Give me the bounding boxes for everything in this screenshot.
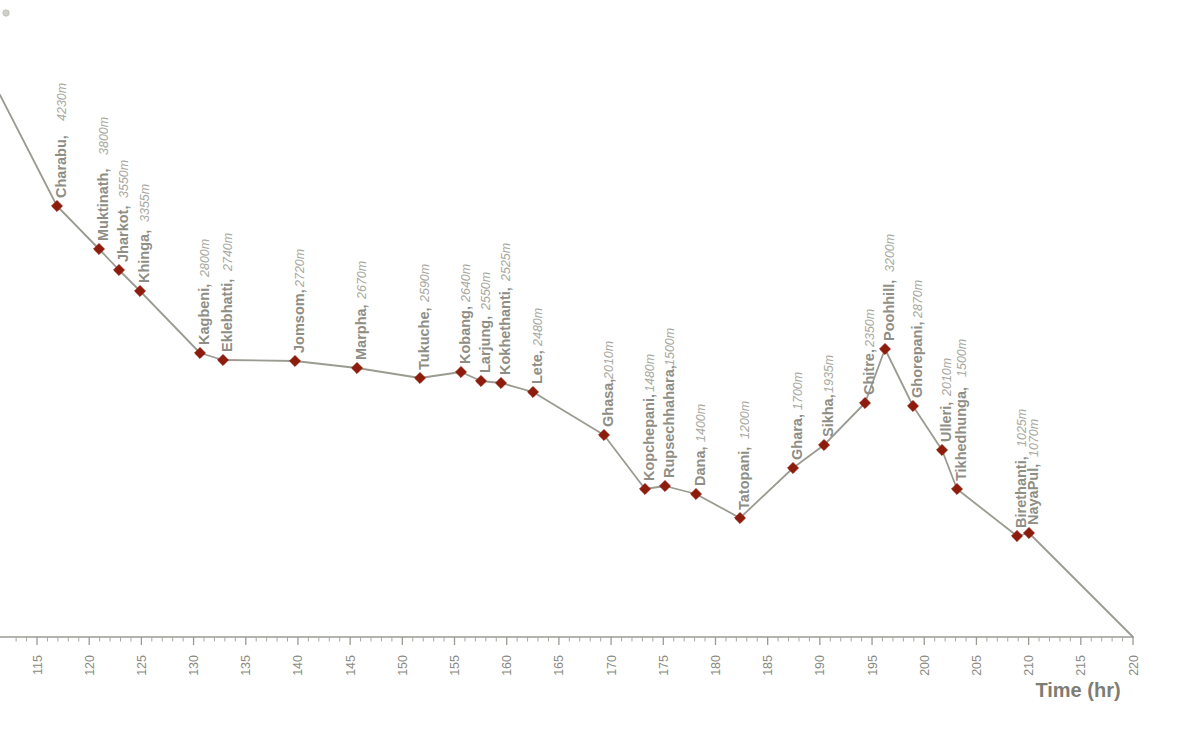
data-point-label-elevation: 1070m (1027, 419, 1041, 457)
x-axis-tick-labels: 1151201251301351401451501551601651701751… (31, 655, 1141, 676)
data-point-label-name: Ghorepani, (909, 321, 925, 398)
data-point-label-group: Chitre,2350m (861, 309, 877, 395)
data-point-label-group: Ghorepani,2870m (909, 280, 925, 398)
x-tick-label: 180 (709, 655, 723, 676)
data-point-label-group: Charabu,4230m (53, 83, 69, 198)
data-point-label-elevation: 2010m (940, 358, 954, 397)
data-point-label-group: Ulleri,2010m (938, 358, 954, 442)
data-point-label-group: Sikha,1935m (820, 355, 836, 437)
data-point-label-name: Sikha, (820, 394, 836, 437)
data-point-label-elevation: 2800m (198, 239, 212, 278)
data-point-marker[interactable] (476, 376, 487, 387)
data-point-marker[interactable] (456, 367, 467, 378)
data-point-label-elevation: 2480m (531, 308, 545, 347)
data-point-label-name: Larjung, (477, 316, 493, 373)
x-axis-title: Time (hr) (1035, 679, 1120, 701)
data-point-label-group: Jomsom,2720m (291, 249, 307, 353)
data-point-label-elevation: 2550m (479, 272, 493, 311)
x-tick-label: 170 (605, 655, 619, 676)
data-point-label-group: Kopchepani,1480m (641, 354, 657, 481)
data-point-label-name: Tikhedhunga, (953, 387, 969, 481)
data-point-label-elevation: 1500m (663, 328, 677, 366)
data-point-label-name: Ghasa, (600, 379, 616, 427)
data-point-label-elevation: 1500m (955, 339, 969, 377)
data-point-label-elevation: 3550m (117, 160, 131, 198)
data-point-marker[interactable] (352, 363, 363, 374)
x-tick-label: 190 (813, 655, 827, 676)
data-point-label-group: Marpha,2670m (353, 261, 369, 360)
data-point-label-group: Poohhill,3200m (881, 234, 897, 341)
x-tick-label: 200 (918, 655, 932, 676)
data-point-marker[interactable] (528, 387, 539, 398)
x-tick-label: 160 (500, 655, 514, 676)
x-tick-label: 125 (135, 655, 149, 676)
data-point-label-elevation: 2525m (499, 243, 513, 282)
data-point-label-elevation: 2670m (355, 261, 369, 300)
data-point-marker[interactable] (496, 378, 507, 389)
x-tick-label: 120 (83, 655, 97, 676)
data-point-label-group: Kobang,2640m (457, 264, 473, 364)
data-point-label-elevation: 1480m (643, 354, 657, 392)
data-point-label-group: Kokhethanti,2525m (497, 243, 513, 375)
elevation-profile-chart: 1151201251301351401451501551601651701751… (0, 0, 1186, 747)
data-point-marker[interactable] (218, 355, 229, 366)
data-point-label-name: Charabu, (53, 135, 69, 198)
x-tick-label: 220 (1127, 655, 1141, 676)
data-point-label-elevation: 2640m (459, 264, 473, 303)
data-point-label-name: Kopchepani, (641, 394, 657, 481)
data-point-label-group: Eklebhatti,2740m (219, 233, 235, 352)
data-point-label-group: Khinga,3355m (136, 184, 152, 283)
x-axis (0, 637, 1133, 645)
data-point-label-group: Kagbeni,2800m (196, 239, 212, 345)
data-point-marker[interactable] (937, 445, 948, 456)
x-tick-label: 205 (970, 655, 984, 676)
data-point-label-group: Dana,1400m (692, 404, 708, 486)
data-point-label-group: Tukuche,2590m (416, 264, 432, 370)
x-tick-label: 210 (1022, 655, 1036, 676)
data-point-label-elevation: 3800m (97, 117, 111, 155)
x-tick-label: 215 (1074, 655, 1088, 676)
data-point-label-elevation: 2870m (911, 280, 925, 319)
data-point-label-elevation: 2350m (863, 309, 877, 348)
data-point-label-group: Lete,2480m (529, 308, 545, 384)
data-point-label-group: Ghara,1700m (789, 372, 805, 460)
chart-plot-area: 1151201251301351401451501551601651701751… (0, 0, 1186, 747)
data-point-marker[interactable] (880, 344, 891, 355)
data-point-label-elevation: 1200m (738, 401, 752, 439)
x-tick-label: 150 (396, 655, 410, 676)
data-point-label-name: Ghara, (789, 414, 805, 460)
data-point-label-group: Ghasa,2010m (600, 341, 616, 427)
data-point-label-elevation: 2590m (418, 264, 432, 303)
data-point-label-name: Tatopani, (736, 447, 752, 510)
data-point-label-name: Kagbeni, (196, 284, 212, 345)
data-point-label-elevation: 4230m (55, 83, 69, 121)
data-point-label-name: Jharkot, (115, 206, 131, 262)
data-point-label-name: Tukuche, (416, 307, 432, 370)
data-point-label-group: Tikhedhunga,1500m (953, 339, 969, 481)
data-point-labels: Charabu,4230mMuktinath,3800mJharkot,3550… (53, 83, 1041, 528)
data-point-marker[interactable] (290, 356, 301, 367)
data-point-label-group: Tatopani,1200m (736, 401, 752, 510)
data-point-label-name: Muktinath, (95, 169, 111, 242)
data-point-label-name: Chitre, (861, 349, 877, 395)
data-point-label-group: Rupsechhahara,1500m (661, 328, 677, 478)
data-point-label-elevation: 3355m (138, 184, 152, 222)
data-point-label-elevation: 1700m (791, 372, 805, 410)
data-point-label-group: Muktinath,3800m (95, 117, 111, 241)
data-point-marker[interactable] (908, 401, 919, 412)
stray-dot-decoration (3, 10, 9, 16)
data-point-marker[interactable] (415, 373, 426, 384)
data-point-label-name: Dana, (692, 447, 708, 487)
data-point-marker[interactable] (691, 489, 702, 500)
x-tick-label: 195 (866, 655, 880, 676)
data-point-label-name: Kobang, (457, 306, 473, 364)
data-point-label-name: Kokhethanti, (497, 287, 513, 375)
data-point-label-name: Ulleri, (938, 402, 954, 442)
data-point-label-name: Jomsom, (291, 289, 307, 353)
x-tick-label: 140 (291, 655, 305, 676)
data-point-label-elevation: 2720m (293, 249, 307, 288)
x-tick-label: 145 (344, 655, 358, 676)
data-point-marker[interactable] (660, 481, 671, 492)
data-point-label-name: Poohhill, (881, 280, 897, 341)
data-point-label-name: Eklebhatti, (219, 279, 235, 352)
